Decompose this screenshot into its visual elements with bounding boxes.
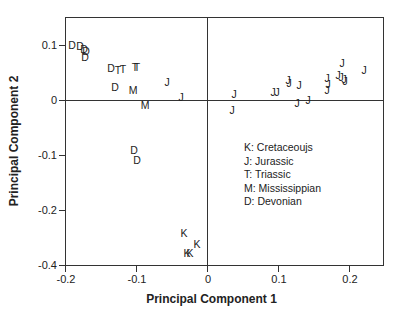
data-point-cretaceous: K	[186, 248, 193, 258]
plot-area	[65, 17, 384, 266]
data-point-mississippian: M	[129, 85, 138, 95]
data-point-jurassic: J	[342, 76, 347, 86]
x-tick	[207, 266, 208, 272]
y-tick-label: -0.1	[38, 149, 57, 161]
data-point-jurassic: J	[178, 92, 183, 102]
x-tick	[349, 266, 350, 272]
data-point-devonian: D	[111, 82, 119, 92]
data-point-cretaceous: K	[193, 239, 200, 249]
data-point-jurassic: J	[286, 78, 291, 88]
zero-x-reference-line	[207, 17, 208, 266]
y-tick-label: 0.1	[42, 39, 57, 51]
y-tick	[59, 100, 65, 101]
data-point-jurassic: J	[339, 58, 344, 68]
data-point-triassic: T	[120, 64, 126, 74]
data-point-mississippian: M	[141, 100, 150, 110]
data-point-jurassic: J	[296, 80, 301, 90]
data-point-jurassic: J	[324, 85, 329, 95]
x-tick	[65, 266, 66, 272]
y-axis-title: Principal Component 2	[7, 76, 21, 207]
legend: K: Cretaceoujs J: Jurassic T: Triassic M…	[244, 141, 321, 209]
data-point-devonian: D	[81, 52, 89, 62]
y-tick-label: 0	[51, 94, 57, 106]
x-tick	[278, 266, 279, 272]
zero-y-reference-line	[65, 100, 384, 101]
data-point-jurassic: J	[231, 89, 236, 99]
x-axis-title: Principal Component 1	[0, 292, 403, 306]
x-tick-label: 0.1	[271, 273, 286, 285]
data-point-jurassic: J	[164, 77, 169, 87]
data-point-jurassic: J	[274, 87, 279, 97]
data-point-devonian: D	[68, 40, 76, 50]
y-tick-label: -0.2	[38, 204, 57, 216]
x-tick-label: 0.2	[342, 273, 357, 285]
data-point-jurassic: J	[294, 98, 299, 108]
x-tick-label: 0	[205, 273, 211, 285]
y-tick	[59, 210, 65, 211]
y-tick-label: -0.4	[38, 259, 57, 271]
legend-item-cretaceous: K: Cretaceoujs	[244, 141, 321, 155]
legend-item-devonian: D: Devonian	[244, 195, 321, 209]
y-tick	[59, 155, 65, 156]
data-point-jurassic: J	[305, 95, 310, 105]
data-point-triassic: T	[134, 62, 140, 72]
data-point-devonian: D	[133, 155, 141, 165]
data-point-devonian: D	[107, 63, 115, 73]
y-tick	[59, 45, 65, 46]
legend-item-triassic: T: Triassic	[244, 168, 321, 182]
x-tick-label: -0.2	[57, 273, 76, 285]
legend-item-jurassic: J: Jurassic	[244, 155, 321, 169]
data-point-jurassic: J	[229, 105, 234, 115]
legend-item-mississippian: M: Mississippian	[244, 182, 321, 196]
data-point-cretaceous: K	[180, 228, 187, 238]
x-tick	[136, 266, 137, 272]
x-tick-label: -0.1	[128, 273, 147, 285]
data-point-jurassic: J	[361, 65, 366, 75]
